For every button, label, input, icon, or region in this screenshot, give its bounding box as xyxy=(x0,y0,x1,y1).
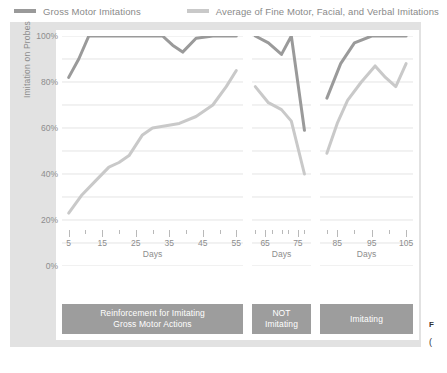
condition-box-reinforcement: Reinforcement for Imitating Gross Motor … xyxy=(62,304,243,334)
x-tick-label: 85 xyxy=(332,238,341,248)
x-tick-major xyxy=(203,230,204,237)
legend-entry-gross-motor: Gross Motor Imitations xyxy=(14,6,141,17)
x-tick-major xyxy=(136,230,137,237)
y-axis-ticks: 0%20%40%60%80%100% xyxy=(28,36,58,266)
y-tick-label: 100% xyxy=(36,31,58,41)
x-tick-minor xyxy=(220,230,221,234)
x-tick-major xyxy=(372,230,373,237)
x-axis-panel-1: 51525354555Days xyxy=(62,230,243,264)
x-tick-major xyxy=(236,230,237,237)
series-line xyxy=(255,87,304,174)
x-axis-label: Days xyxy=(272,249,291,259)
chart-legend: Gross Motor Imitations Average of Fine M… xyxy=(0,0,447,22)
x-tick-label: 25 xyxy=(131,238,140,248)
x-tick-major xyxy=(102,230,103,237)
x-tick-minor xyxy=(186,230,187,234)
x-tick-major xyxy=(265,230,266,237)
condition-box-fill: Reinforcement for Imitating Gross Motor … xyxy=(62,304,243,334)
x-tick-minor xyxy=(85,230,86,234)
y-tick-label: 20% xyxy=(41,215,58,225)
figure-root: Gross Motor Imitations Average of Fine M… xyxy=(0,0,447,373)
series-line xyxy=(327,64,406,154)
series-line xyxy=(327,36,406,98)
condition-label: Imitating xyxy=(350,314,383,325)
x-tick-label: 15 xyxy=(97,238,106,248)
series-line xyxy=(69,71,237,214)
caption-fragment-line1: F xyxy=(429,320,447,329)
x-tick-label: 45 xyxy=(198,238,207,248)
legend-label-gross-motor: Gross Motor Imitations xyxy=(43,6,141,17)
x-tick-label: 65 xyxy=(260,238,269,248)
series-line xyxy=(69,36,237,77)
x-tick-label: 75 xyxy=(293,238,302,248)
x-tick-minor xyxy=(272,230,273,234)
x-tick-label: 5 xyxy=(66,238,71,248)
x-tick-label: 95 xyxy=(367,238,376,248)
y-tick-label: 80% xyxy=(41,77,58,87)
series-line xyxy=(255,36,304,130)
x-tick-minor xyxy=(354,230,355,234)
condition-label: Reinforcement for Imitating Gross Motor … xyxy=(100,308,205,329)
x-tick-major xyxy=(298,230,299,237)
caption-fragment-line2: ( xyxy=(429,337,447,347)
condition-box-not-imitating: NOT Imitating xyxy=(252,304,311,334)
x-tick-major xyxy=(406,230,407,237)
condition-label: NOT Imitating xyxy=(265,308,298,329)
legend-entry-average-other: Average of Fine Motor, Facial, and Verba… xyxy=(187,6,439,17)
x-tick-minor xyxy=(119,230,120,234)
x-tick-label: 35 xyxy=(165,238,174,248)
y-tick-label: 40% xyxy=(41,169,58,179)
condition-box-fill: Imitating xyxy=(320,304,413,334)
x-tick-label: 55 xyxy=(232,238,241,248)
x-tick-minor xyxy=(255,230,256,234)
x-axis-label: Days xyxy=(357,249,376,259)
x-tick-major xyxy=(69,230,70,237)
x-tick-minor xyxy=(153,230,154,234)
line-swatch-icon xyxy=(14,9,36,13)
x-tick-minor xyxy=(304,230,305,234)
x-axis-label: Days xyxy=(143,249,162,259)
x-tick-minor xyxy=(327,230,328,234)
y-tick-label: 60% xyxy=(41,123,58,133)
condition-box-imitating: Imitating xyxy=(320,304,413,334)
x-tick-minor xyxy=(288,230,289,234)
condition-box-fill: NOT Imitating xyxy=(252,304,311,334)
x-tick-minor xyxy=(389,230,390,234)
x-axis-panel-3: 8595105Days xyxy=(320,230,413,264)
x-tick-minor xyxy=(282,230,283,234)
x-axis-panel-2: 6575Days xyxy=(252,230,311,264)
x-tick-major xyxy=(337,230,338,237)
line-swatch-icon xyxy=(187,9,209,13)
x-tick-label: 105 xyxy=(399,238,413,248)
legend-label-average-other: Average of Fine Motor, Facial, and Verba… xyxy=(216,6,439,17)
x-tick-major xyxy=(169,230,170,237)
y-tick-label: 0% xyxy=(46,261,58,271)
